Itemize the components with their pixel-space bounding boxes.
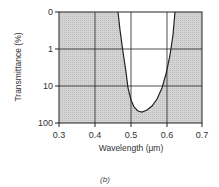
x-axis-label: Wavelength (μm) <box>99 143 164 153</box>
y-axis <box>55 12 59 123</box>
y-tick-100: 100 <box>38 118 53 128</box>
x-tick-0-5: 0.5 <box>125 130 138 140</box>
x-tick-0-7: 0.7 <box>196 130 209 140</box>
x-tick-0-6: 0.6 <box>161 130 174 140</box>
y-tick-0: 0 <box>48 7 53 17</box>
figure-caption: (b) <box>100 175 110 184</box>
y-tick-1: 1 <box>48 44 53 54</box>
x-tick-0-4: 0.4 <box>89 130 102 140</box>
y-tick-10: 10 <box>43 81 53 91</box>
transmittance-chart: 0 1 10 100 0.3 0.4 0.5 0.6 0.7 Wavelengt… <box>0 0 219 187</box>
x-axis <box>59 123 202 127</box>
x-tick-0-3: 0.3 <box>53 130 66 140</box>
y-axis-label: Transmittance (%) <box>13 32 23 101</box>
